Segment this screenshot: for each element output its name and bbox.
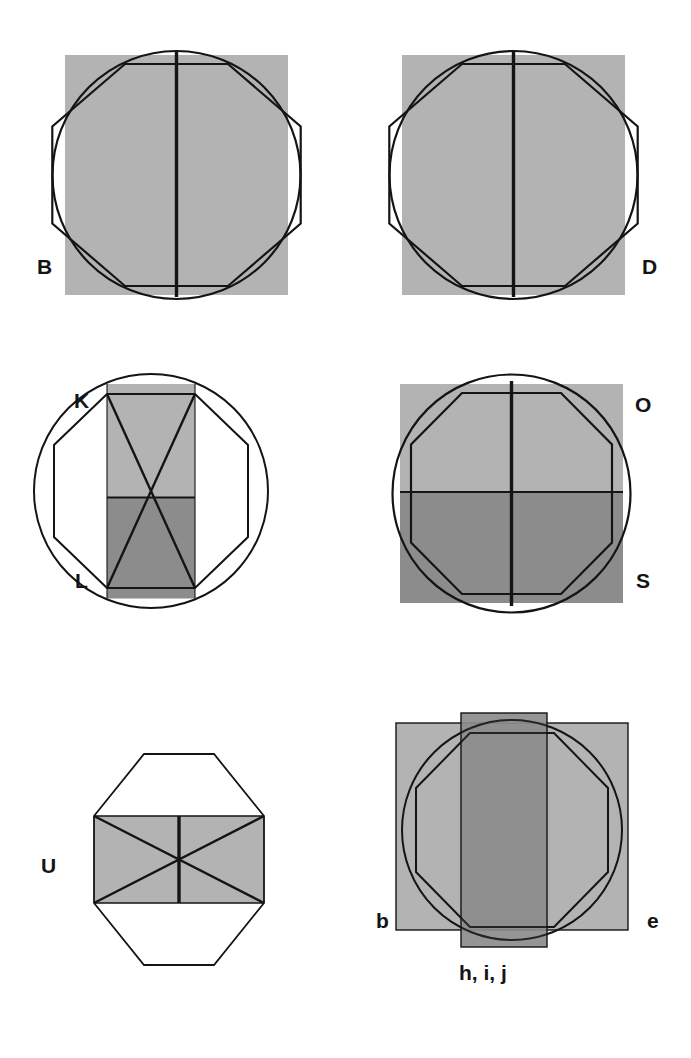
panel-k-label: K [74,390,89,411]
panel-d: D [376,38,676,308]
tall-narrow-rect-dark [461,713,547,947]
panel-e-label: e [647,910,659,931]
narrow-bar-dark-bottom [107,498,195,599]
panel-d-graphic [376,38,676,308]
panel-b-graphic [18,38,318,308]
panel-b-label: B [37,256,52,277]
panel-os-graphic [376,370,676,625]
panel-b-lower-label: b [376,910,389,931]
panel-b: B [18,38,318,308]
panel-bej-caption: h, i, j [459,962,507,983]
panel-l-label: L [75,570,88,591]
panel-u-label: U [41,855,56,876]
narrow-bar-light-top [107,384,195,498]
panel-s-label: S [636,570,650,591]
panel-u: U [18,700,318,980]
panel-kl-graphic [18,370,318,625]
panel-u-graphic [18,700,318,980]
panel-o-label: O [635,394,651,415]
panel-bej: b e h, i, j [376,700,676,1000]
panel-os: O S [376,370,676,625]
panel-d-label: D [642,256,657,277]
figure-sheet: B D [0,0,691,1058]
panel-kl: K L [18,370,318,625]
panel-bej-graphic [376,700,676,1000]
